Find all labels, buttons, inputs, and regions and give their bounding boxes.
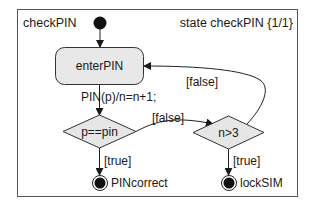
- transition-label-pin: PIN(p)/n=n+1;: [81, 90, 156, 104]
- svg-text:enterPIN: enterPIN: [76, 59, 123, 73]
- state-diagram: checkPIN state checkPIN {1/1} enterPIN P…: [0, 0, 314, 214]
- transition-label-false-1: [false]: [152, 111, 184, 125]
- state-enter-pin[interactable]: enterPIN: [56, 48, 144, 85]
- final-label-pin-correct: PINcorrect: [111, 176, 168, 190]
- svg-text:n>3: n>3: [218, 126, 239, 140]
- transition-label-false-2: [false]: [186, 75, 218, 89]
- frame-title: state checkPIN {1/1}: [180, 16, 293, 30]
- transition-label-true-1: [true]: [104, 154, 131, 168]
- frame-name: checkPIN: [23, 16, 77, 30]
- svg-text:p==pin: p==pin: [81, 125, 118, 139]
- state-frame: [18, 10, 298, 197]
- transition-label-true-2: [true]: [233, 154, 260, 168]
- final-state-pin-correct[interactable]: [93, 176, 108, 191]
- final-label-lock-sim: lockSIM: [240, 176, 283, 190]
- initial-state-icon: [94, 17, 107, 30]
- final-state-lock-sim[interactable]: [222, 176, 237, 191]
